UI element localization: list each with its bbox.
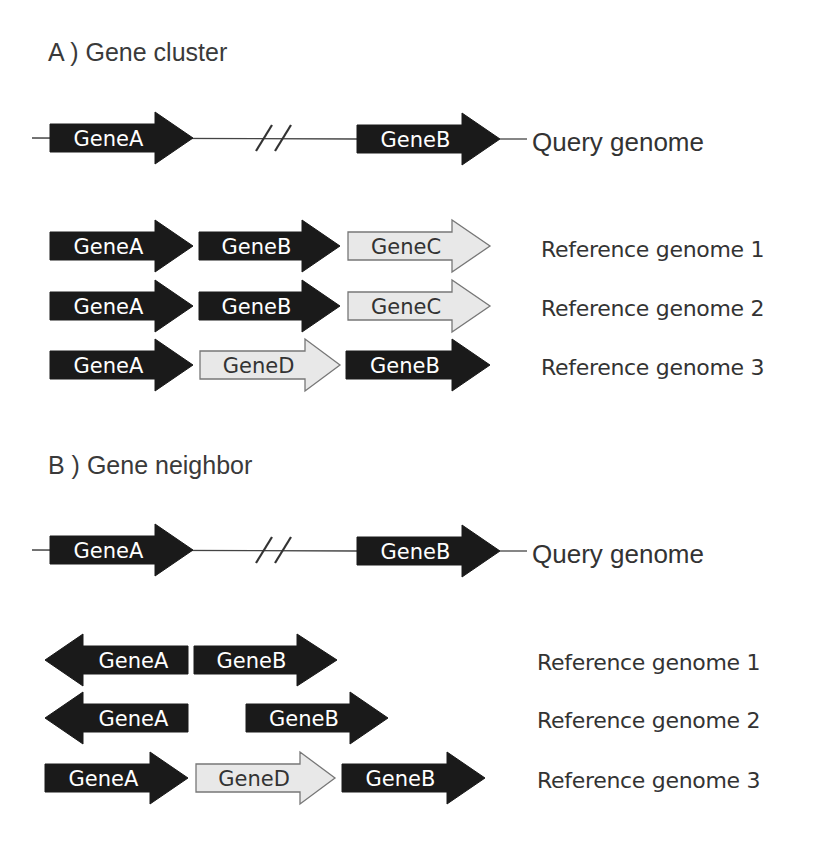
gene-label: GeneA [69,767,139,791]
section-a-ref3-label: Reference genome 3 [541,355,764,380]
section-a-ref3-gene-1: GeneA [50,339,193,391]
gene-label: GeneD [218,767,290,791]
section-b-ref3-gene-1: GeneA [45,752,188,804]
gene-label: GeneA [99,707,169,731]
gene-label: GeneA [74,354,144,378]
section-a-ref2-label: Reference genome 2 [541,296,764,321]
gene-label: GeneC [371,295,441,319]
section-b-query-break-slash-1 [256,537,272,563]
section-a-ref2-gene-2: GeneB [199,280,340,332]
section-a-ref2-gene-3: GeneC [348,280,490,332]
section-a-ref1-gene-2: GeneB [199,220,340,272]
gene-label: GeneB [381,540,451,564]
section-b-ref1-label: Reference genome 1 [537,650,760,675]
section-a-query-break-slash-2 [275,125,291,151]
gene-label: GeneA [99,649,169,673]
gene-label: GeneA [74,127,144,151]
section-a-ref2-gene-1: GeneA [50,280,193,332]
gene-label: GeneB [366,767,436,791]
section-a-ref3-gene-2: GeneD [200,339,340,391]
section-b-title: B ) Gene neighbor [48,451,252,480]
section-a-ref3-gene-3: GeneB [346,339,490,391]
section-b-ref3-label: Reference genome 3 [537,768,760,793]
section-b-ref3-gene-2: GeneD [196,752,335,804]
section-b-query-gene-b: GeneB [357,525,500,577]
section-a-query-gene-b: GeneB [357,113,500,165]
gene-label: GeneB [269,707,339,731]
gene-label: GeneC [371,235,441,259]
gene-label: GeneB [217,649,287,673]
section-b-ref2-label: Reference genome 2 [537,708,760,733]
section-b-ref2-gene-2: GeneB [246,692,388,744]
section-a-ref1-gene-1: GeneA [50,220,193,272]
gene-label: GeneB [222,295,292,319]
gene-label: GeneA [74,539,144,563]
section-a-query-gene-a: GeneA [50,112,193,164]
section-a-query-label: Query genome [532,127,704,158]
gene-label: GeneB [381,128,451,152]
gene-label: GeneA [74,235,144,259]
gene-label: GeneB [222,235,292,259]
section-b-query-break-slash-2 [275,537,291,563]
gene-diagram: GeneAGeneBGeneAGeneBGeneCGeneAGeneBGeneC… [0,0,825,848]
section-b-query-gene-a: GeneA [50,524,193,576]
section-a-ref1-gene-3: GeneC [348,220,490,272]
section-b-ref2-gene-1: GeneA [45,692,188,744]
gene-label: GeneA [74,295,144,319]
section-b-ref3-gene-3: GeneB [342,752,485,804]
section-a-query-break-slash-1 [256,125,272,151]
gene-label: GeneB [370,354,440,378]
gene-label: GeneD [223,354,295,378]
section-b-query-label: Query genome [532,539,704,570]
section-a-ref1-label: Reference genome 1 [541,237,764,262]
section-a-title: A ) Gene cluster [48,38,227,67]
section-b-ref1-gene-2: GeneB [194,634,337,686]
section-b-ref1-gene-1: GeneA [45,634,188,686]
